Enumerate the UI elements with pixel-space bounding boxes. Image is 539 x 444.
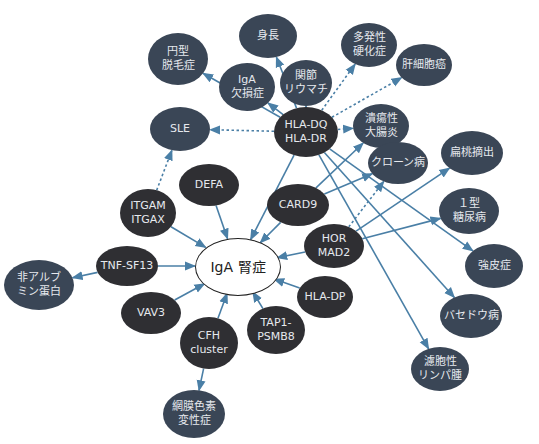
disease-node-basedow: バセドウ病 xyxy=(440,294,502,338)
node-label: 強皮症 xyxy=(478,259,511,273)
node-label: HOR MAD2 xyxy=(304,232,364,260)
node-label: VAV3 xyxy=(137,306,165,320)
disease-node-t1d: １型 糖尿病 xyxy=(439,188,499,234)
edge-hladq-to-kaiyosei xyxy=(338,128,353,129)
node-label: 肝細胞癌 xyxy=(402,58,446,72)
node-label: 潰瘍性 大腸炎 xyxy=(365,112,398,140)
disease-node-momaku: 網膜色素 変性症 xyxy=(163,390,225,438)
disease-node-kyohi: 強皮症 xyxy=(465,244,523,288)
node-label: DEFA xyxy=(195,178,223,192)
node-label: IgA 欠損症 xyxy=(231,73,264,101)
node-label: IgA 腎症 xyxy=(210,260,265,274)
disease-node-kansetsu: 関節 リウマチ xyxy=(280,60,332,106)
node-label: 網膜色素 変性症 xyxy=(172,400,216,428)
node-label: 関節 リウマチ xyxy=(284,69,328,97)
node-label: TAP1- PSMB8 xyxy=(257,316,295,344)
disease-node-shincho: 身長 xyxy=(239,14,297,58)
edge-hormad2-to-t1d xyxy=(362,218,440,238)
node-label: CARD9 xyxy=(279,198,317,212)
disease-node-hentou: 扁桃摘出 xyxy=(441,131,503,175)
disease-node-sle: SLE xyxy=(150,107,210,151)
edge-hladq-to-iga_def xyxy=(268,103,283,115)
edge-card9-to-iga xyxy=(260,222,280,242)
node-label: 濾胞性 リンパ腫 xyxy=(418,355,462,383)
gene-node-hladp: HLA-DP xyxy=(297,276,353,318)
center-node-iga: IgA 腎症 xyxy=(195,238,281,296)
node-label: HLA-DQ HLA-DR xyxy=(284,118,327,146)
edge-hladq-to-sle xyxy=(210,130,274,132)
node-label: 扁桃摘出 xyxy=(450,146,494,160)
gene-node-defa: DEFA xyxy=(179,164,239,206)
edge-hladp-to-iga xyxy=(274,279,300,288)
edge-hormad2-to-crohn xyxy=(349,181,384,226)
edge-vav3-to-iga xyxy=(175,284,205,300)
gene-node-itgam: ITGAM ITGAX xyxy=(120,189,176,237)
node-label: ITGAM ITGAX xyxy=(130,199,166,227)
edge-itgam-to-sle xyxy=(157,150,172,190)
edge-defa-to-iga xyxy=(216,205,228,238)
node-label: バセドウ病 xyxy=(444,309,499,323)
edge-hormad2-to-iga xyxy=(277,252,305,258)
node-label: CFH cluster xyxy=(190,329,227,357)
edge-cfh-to-iga xyxy=(218,293,227,318)
disease-node-crohn: クローン病 xyxy=(368,142,428,184)
edge-itgam-to-iga xyxy=(171,227,206,248)
gene-disease-network-diagram: 円型 脱毛症身長IgA 欠損症関節 リウマチ多発性 硬化症肝細胞癌潰瘍性 大腸炎… xyxy=(0,0,539,444)
edge-tnf-to-hi_alb xyxy=(73,272,98,277)
node-label: HLA-DP xyxy=(304,290,345,304)
node-label: SLE xyxy=(170,122,190,136)
gene-node-hormad2: HOR MAD2 xyxy=(304,224,364,268)
gene-node-vav3: VAV3 xyxy=(121,292,181,334)
gene-node-tnf: TNF-SF13 xyxy=(96,246,158,286)
disease-node-iga_def: IgA 欠損症 xyxy=(219,63,275,111)
gene-node-cfh: CFH cluster xyxy=(180,317,238,369)
edge-tap1-to-iga xyxy=(253,292,263,309)
node-label: 多発性 硬化症 xyxy=(353,31,386,59)
node-label: １型 糖尿病 xyxy=(453,197,486,225)
node-label: クローン病 xyxy=(371,156,425,170)
gene-node-tap1: TAP1- PSMB8 xyxy=(247,306,305,354)
node-label: 非アルブ ミン蛋白 xyxy=(17,271,61,299)
gene-node-hladq: HLA-DQ HLA-DR xyxy=(274,107,338,157)
gene-node-card9: CARD9 xyxy=(267,184,329,226)
node-label: TNF-SF13 xyxy=(101,259,154,273)
disease-node-rosei: 濾胞性 リンパ腫 xyxy=(411,347,469,391)
edge-cfh-to-momaku xyxy=(199,369,204,391)
disease-node-kansaibo: 肝細胞癌 xyxy=(396,44,452,86)
disease-node-enkei: 円型 脱毛症 xyxy=(148,33,208,85)
node-label: 円型 脱毛症 xyxy=(162,45,195,73)
disease-node-tahatsu: 多発性 硬化症 xyxy=(341,23,397,67)
disease-node-hi_alb: 非アルブ ミン蛋白 xyxy=(4,260,74,310)
node-label: 身長 xyxy=(257,29,279,43)
